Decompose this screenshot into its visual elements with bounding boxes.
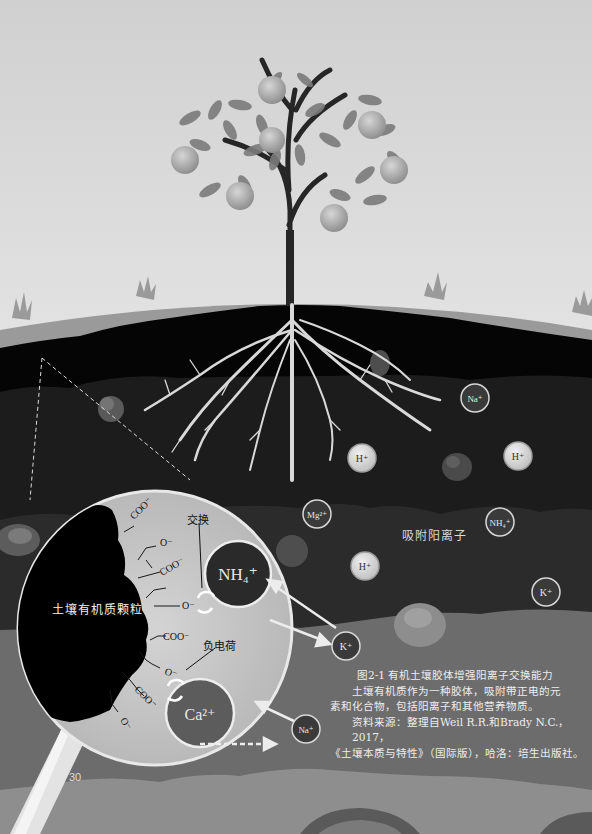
soil-ion: Mg²⁺: [303, 500, 331, 528]
page-number: 30: [69, 771, 81, 783]
figure-description-cont: 素和化合物，包括阳离子和其他营养物质。: [330, 699, 590, 715]
soil-ion: H⁺: [504, 442, 532, 470]
figure-source-cont: 《土壤本质与特性》（国际版），哈洛：培生出版社。: [330, 746, 590, 762]
figure-title: 图2-1 有机土壤胶体增强阳离子交换能力: [330, 668, 590, 684]
soil-ion: H⁺: [351, 552, 379, 580]
soil-ion: Na⁺: [292, 715, 320, 743]
svg-text:NH₄⁺: NH₄⁺: [490, 518, 511, 528]
exchange-label: 交换: [187, 511, 209, 527]
svg-text:K⁺: K⁺: [540, 587, 553, 598]
svg-text:Na⁺: Na⁺: [298, 725, 313, 735]
soil-ion: H⁺: [348, 444, 376, 472]
figure-description: 土壤有机质作为一种胶体，吸附带正电的元: [330, 684, 590, 700]
negative-charge-label: 负电荷: [203, 637, 236, 653]
figure-source: 资料来源：整理自Weil R.R.和Brady N.C.，2017，: [330, 715, 590, 746]
figure-page: COO⁻ O⁻ COO⁻ O⁻ COO⁻ O⁻ COO⁻ O⁻ NH₄⁺ Ca²…: [0, 0, 592, 834]
soil-ion: NH₄⁺: [486, 508, 514, 536]
soil-ion: K⁺: [532, 578, 560, 606]
soil-ion: K⁺: [332, 632, 360, 660]
adsorbed-cations-label: 吸附阳离子: [402, 526, 467, 543]
soil-ion: Na⁺: [461, 384, 489, 412]
svg-text:H⁺: H⁺: [356, 453, 369, 464]
svg-text:K⁺: K⁺: [340, 641, 353, 652]
svg-text:Mg²⁺: Mg²⁺: [307, 510, 327, 520]
svg-text:H⁺: H⁺: [359, 561, 372, 572]
svg-text:H⁺: H⁺: [512, 451, 525, 462]
organic-particle-label: 土壤有机质颗粒: [52, 600, 143, 617]
svg-text:Na⁺: Na⁺: [467, 394, 482, 404]
figure-caption: 图2-1 有机土壤胶体增强阳离子交换能力 土壤有机质作为一种胶体，吸附带正电的元…: [330, 668, 590, 762]
